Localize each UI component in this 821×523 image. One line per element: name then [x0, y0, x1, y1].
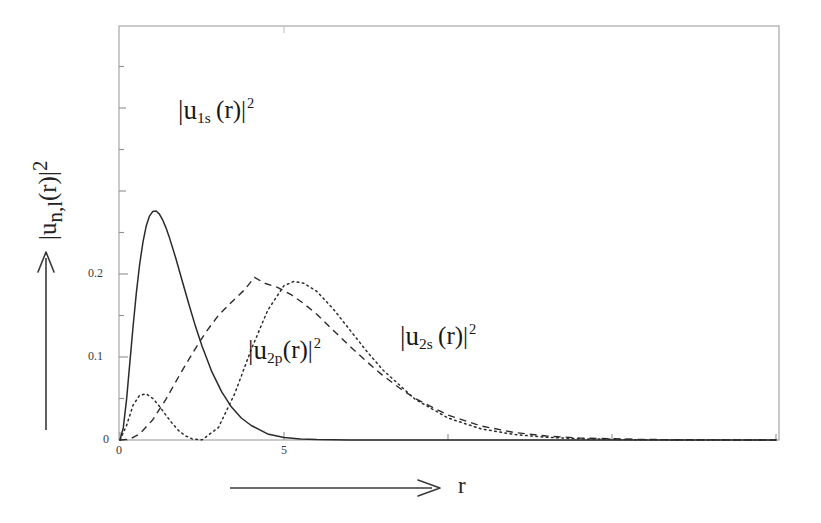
curve-label-2p: |u2p(r)|2: [248, 336, 320, 363]
y-axis-label: |un,l(r)|2: [30, 161, 66, 240]
curve-2p: [120, 277, 776, 440]
curve-label-2s: |u2s (r)|2: [400, 322, 475, 349]
curve-label-2s-mid: (r)|: [438, 322, 468, 349]
figure-container: 0 0.1 0.2 0 5 |un,l(r)|2 r |u1s (r)|2 |u…: [0, 0, 821, 523]
curve-label-2s-prefix: |u: [400, 321, 419, 351]
curve-label-2s-exponent: 2: [469, 321, 476, 337]
y-axis-label-subscript: n,l: [43, 201, 67, 222]
plot-frame: [119, 26, 779, 440]
y-axis-ticks: [119, 67, 128, 441]
x-axis-label: r: [458, 474, 466, 497]
curve-label-2p-exponent: 2: [314, 335, 321, 351]
x-tick-label-5: 5: [281, 444, 287, 456]
x-tick-label-0: 0: [116, 444, 122, 456]
curve-label-2p-prefix: |u: [248, 335, 267, 365]
y-tick-label-0.2: 0.2: [88, 267, 103, 279]
y-axis-label-prefix: |u: [34, 222, 61, 240]
x-axis-ticks: [120, 432, 776, 440]
y-tick-label-0: 0: [103, 433, 109, 445]
curve-label-1s-exponent: 2: [247, 95, 254, 111]
curve-label-2p-mid: (r)|: [283, 336, 313, 363]
y-axis-arrow: [38, 252, 54, 430]
plot-svg: [0, 0, 821, 523]
y-axis-label-exponent: 2: [28, 161, 52, 171]
curve-label-1s-mid: (r)|: [216, 96, 246, 123]
curve-label-1s-subscript: 1s: [197, 109, 211, 126]
curve-label-2p-subscript: 2p: [267, 349, 283, 366]
x-axis-arrow: [230, 480, 440, 496]
curve-label-1s-prefix: |u: [178, 95, 197, 125]
y-tick-label-0.1: 0.1: [88, 350, 103, 362]
curve-2s: [120, 282, 776, 441]
curve-label-2s-subscript: 2s: [419, 335, 433, 352]
y-axis-label-mid: (r)|: [34, 171, 61, 201]
curve-label-1s: |u1s (r)|2: [178, 96, 253, 123]
